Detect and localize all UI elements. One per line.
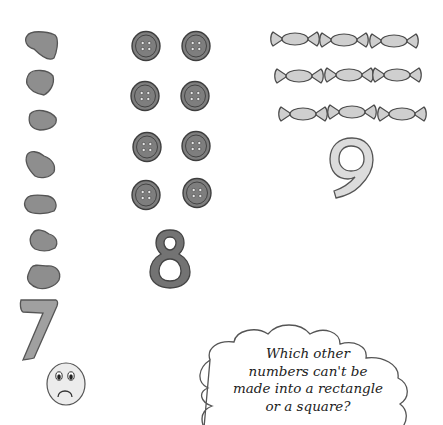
numeral-seven: 7 xyxy=(18,298,63,362)
numeral-eight xyxy=(148,228,192,290)
question-text: Which other numbers can't be made into a… xyxy=(216,345,400,415)
question-line-3: made into a rectangle xyxy=(216,380,400,398)
sad-face xyxy=(45,361,87,407)
stones-icon xyxy=(0,0,80,300)
sweets-icon xyxy=(270,30,440,125)
question-line-4: or a square? xyxy=(216,398,400,416)
eight-glyph-icon xyxy=(148,228,192,290)
question-line-2: numbers can't be xyxy=(216,363,400,381)
sad-face-icon xyxy=(45,361,87,407)
nine-glyph-icon xyxy=(328,136,378,200)
buttons-group xyxy=(120,25,220,200)
numeral-nine xyxy=(328,136,378,200)
question-line-1: Which other xyxy=(216,345,400,363)
sweets-group xyxy=(270,30,440,125)
seven-glyph-icon xyxy=(18,298,63,362)
buttons-icon xyxy=(120,25,220,200)
stones-group xyxy=(0,0,80,300)
